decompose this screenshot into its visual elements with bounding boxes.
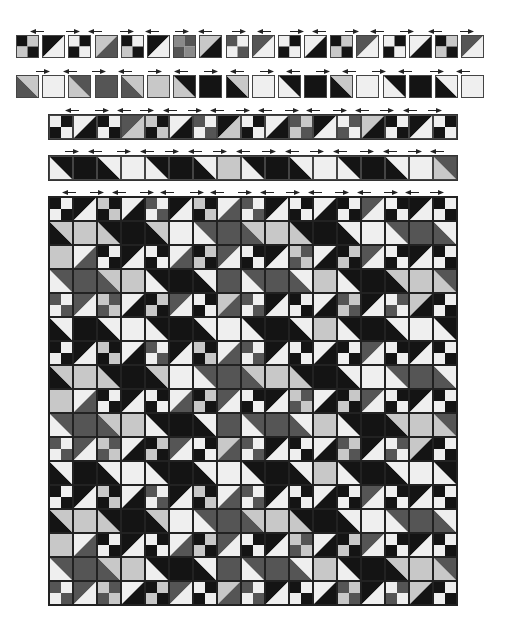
four-patch-tile <box>385 485 409 509</box>
four-patch-tile <box>193 341 217 365</box>
triangle-tile <box>337 317 361 341</box>
four-patch-tile <box>241 341 265 365</box>
four-patch-tile <box>433 115 457 139</box>
solid-tile <box>169 317 193 341</box>
triangle-tile <box>199 35 222 58</box>
solid-tile <box>265 461 289 485</box>
solid-tile <box>42 75 65 98</box>
triangle-tile <box>121 389 145 413</box>
triangle-tile <box>73 581 97 605</box>
solid-tile <box>409 413 433 437</box>
triangle-tile <box>97 413 121 437</box>
triangle-tile <box>313 293 337 317</box>
triangle-tile <box>385 156 409 180</box>
solid-tile <box>409 269 433 293</box>
four-patch-tile <box>226 35 249 58</box>
triangle-tile <box>433 365 457 389</box>
solid-tile <box>409 365 433 389</box>
triangle-tile <box>169 197 193 221</box>
triangle-tile <box>73 197 97 221</box>
triangle-tile <box>241 365 265 389</box>
solid-tile <box>217 317 241 341</box>
triangle-tile <box>121 293 145 317</box>
triangle-tile <box>409 115 433 139</box>
triangle-tile <box>265 293 289 317</box>
solid-tile <box>217 509 241 533</box>
four-patch-tile <box>241 581 265 605</box>
triangle-tile <box>304 35 327 58</box>
triangle-tile <box>147 35 170 58</box>
four-patch-tile <box>97 389 121 413</box>
triangle-tile <box>313 485 337 509</box>
solid-tile <box>409 75 432 98</box>
four-patch-tile <box>193 245 217 269</box>
four-patch-tile <box>97 581 121 605</box>
triangle-tile <box>337 509 361 533</box>
triangle-tile <box>289 156 313 180</box>
triangle-tile <box>68 75 91 98</box>
solid-tile <box>73 365 97 389</box>
triangle-tile <box>173 75 196 98</box>
triangle-tile <box>241 461 265 485</box>
triangle-tile <box>121 437 145 461</box>
triangle-tile <box>337 269 361 293</box>
triangle-tile <box>409 197 433 221</box>
triangle-tile <box>361 389 385 413</box>
triangle-tile <box>265 389 289 413</box>
four-patch-tile <box>145 293 169 317</box>
triangle-tile <box>217 245 241 269</box>
triangle-tile <box>361 437 385 461</box>
triangle-tile <box>97 156 121 180</box>
four-patch-tile <box>97 245 121 269</box>
triangle-tile <box>49 317 73 341</box>
four-patch-tile <box>289 197 313 221</box>
four-patch-tile <box>241 197 265 221</box>
solid-tile <box>409 221 433 245</box>
four-patch-tile <box>193 581 217 605</box>
four-patch-tile <box>330 35 353 58</box>
triangle-tile <box>433 461 457 485</box>
four-patch-tile <box>433 485 457 509</box>
solid-tile <box>73 317 97 341</box>
solid-tile <box>265 317 289 341</box>
solid-tile <box>361 509 385 533</box>
four-patch-tile <box>337 197 361 221</box>
four-patch-tile <box>193 485 217 509</box>
triangle-tile <box>241 509 265 533</box>
solid-tile <box>121 461 145 485</box>
four-patch-tile <box>145 389 169 413</box>
triangle-tile <box>169 581 193 605</box>
four-patch-tile <box>145 437 169 461</box>
solid-tile <box>313 365 337 389</box>
solid-tile <box>265 221 289 245</box>
solid-tile <box>361 413 385 437</box>
triangle-tile <box>73 389 97 413</box>
solid-tile <box>73 221 97 245</box>
four-patch-tile <box>49 245 73 269</box>
four-patch-tile <box>97 115 121 139</box>
four-patch-tile <box>337 293 361 317</box>
triangle-tile <box>49 413 73 437</box>
triangle-tile <box>337 413 361 437</box>
row-4-strip <box>48 155 458 181</box>
four-patch-tile <box>385 389 409 413</box>
solid-tile <box>73 156 97 180</box>
four-patch-tile <box>193 533 217 557</box>
triangle-tile <box>337 461 361 485</box>
triangle-tile <box>145 317 169 341</box>
solid-tile <box>217 461 241 485</box>
triangle-tile <box>313 115 337 139</box>
triangle-tile <box>145 557 169 581</box>
triangle-tile <box>226 75 249 98</box>
four-patch-tile <box>337 245 361 269</box>
four-patch-tile <box>289 581 313 605</box>
solid-tile <box>313 509 337 533</box>
triangle-tile <box>265 341 289 365</box>
solid-tile <box>169 365 193 389</box>
triangle-tile <box>433 317 457 341</box>
triangle-tile <box>361 485 385 509</box>
four-patch-tile <box>289 437 313 461</box>
triangle-tile <box>385 557 409 581</box>
four-patch-tile <box>145 485 169 509</box>
triangle-tile <box>217 533 241 557</box>
